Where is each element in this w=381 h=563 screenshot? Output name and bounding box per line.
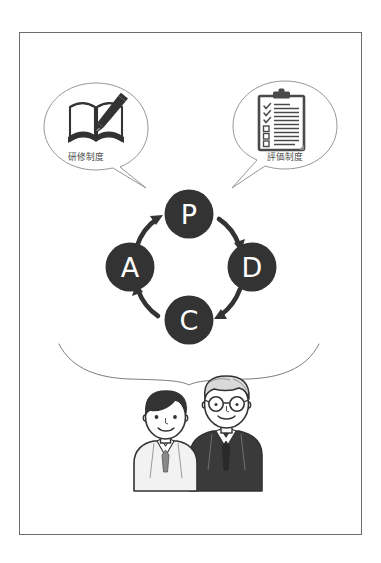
pdca-node-c-letter: C xyxy=(180,305,199,336)
person-senior-employee xyxy=(190,376,262,491)
pdca-node-p-letter: P xyxy=(181,199,197,230)
pdca-node-a-letter: A xyxy=(121,252,140,283)
young-tie xyxy=(162,450,169,472)
speech-bubble-training[interactable]: 研修制度 xyxy=(44,83,148,188)
group-brace xyxy=(59,344,319,385)
bubble-label-training: 研修制度 xyxy=(68,151,104,162)
pdca-node-d-letter: D xyxy=(242,252,263,283)
pdca-nodes: P D C A xyxy=(106,190,277,345)
clipboard-checklist-icon xyxy=(259,89,304,151)
arrow-d-to-c xyxy=(214,289,240,319)
person-young-employee xyxy=(134,391,197,491)
pdca-diagram: 研修制度 xyxy=(0,0,381,563)
bubble-label-evaluation: 評価制度 xyxy=(267,151,303,162)
arrow-a-to-p xyxy=(137,215,163,246)
poster-illustration: 研修制度 xyxy=(0,0,381,563)
speech-bubble-evaluation[interactable]: 評価制度 xyxy=(232,81,337,188)
